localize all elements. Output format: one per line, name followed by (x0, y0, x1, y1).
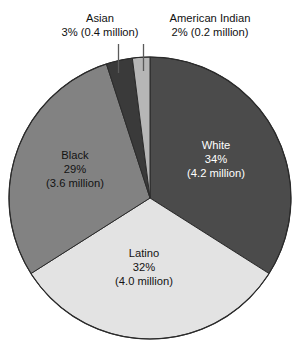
slice-label-white: White 34% (4.2 million) (168, 138, 264, 180)
slice-label-white-name: White (168, 138, 264, 152)
callout-american-indian-name: American Indian (142, 12, 278, 26)
slice-label-latino-name: Latino (92, 246, 196, 260)
slice-label-black: Black 29% (3.6 million) (24, 148, 126, 190)
slice-label-white-count: (4.2 million) (168, 166, 264, 180)
slice-label-latino-count: (4.0 million) (92, 274, 196, 288)
pie-chart: Asian 3% (0.4 million) American Indian 2… (0, 0, 299, 353)
slice-label-latino: Latino 32% (4.0 million) (92, 246, 196, 288)
slice-label-latino-percent: 32% (92, 260, 196, 274)
callout-american-indian-value: 2% (0.2 million) (142, 26, 278, 40)
slice-label-black-count: (3.6 million) (24, 176, 126, 190)
slice-label-white-percent: 34% (168, 152, 264, 166)
slice-label-black-percent: 29% (24, 162, 126, 176)
pie-slices (9, 57, 291, 339)
slice-label-black-name: Black (24, 148, 126, 162)
callout-label-american-indian: American Indian 2% (0.2 million) (142, 12, 278, 39)
